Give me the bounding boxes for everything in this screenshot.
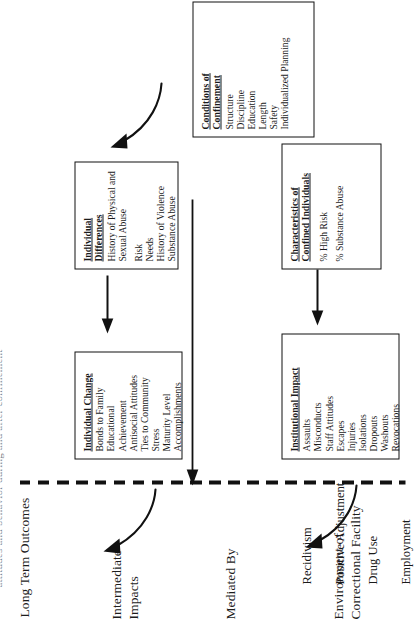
node-item: Substance Abuse (165, 169, 176, 261)
node-item: Discipline (234, 9, 245, 129)
node-individual-differences: Individual Differences History of Physic… (74, 161, 178, 269)
node-item: Revocations (389, 341, 400, 451)
node-item: Educational Achievement (104, 359, 126, 451)
outcome-item: Employment (398, 519, 412, 584)
node-characteristics-of-confined-individuals: Characteristics of Confined Individuals … (281, 143, 381, 269)
node-item: Bonds to Family (93, 359, 104, 451)
node-item: Washouts (378, 341, 389, 451)
node-item: Risk (132, 169, 143, 261)
arrow-curved-icon (300, 481, 362, 557)
node-item: Individualized Planning (278, 9, 289, 129)
node-item: Needs (143, 169, 154, 261)
node-item: Education (245, 9, 256, 129)
node-conditions-of-confinement: Conditions of Confinement Structure Disc… (192, 1, 314, 137)
node-item: Antisocial Attitudes (127, 359, 138, 451)
arrow-short-straight-icon (100, 273, 114, 335)
node-item: % High Risk (317, 151, 328, 261)
node-item: Maturity Level (160, 359, 171, 451)
node-item: Misconducts (311, 341, 322, 451)
arrow-long-straight-icon (185, 197, 199, 487)
node-institutional-impact: Institutional Impact Assaults Misconduct… (281, 333, 399, 459)
arrow-short-straight-icon (310, 267, 324, 327)
node-item: History of Physical and (105, 169, 116, 261)
column-header-mediated-by: Mediated By (222, 548, 239, 619)
spacer (312, 151, 317, 261)
node-item: Stress (149, 359, 160, 451)
diagram-stage: attitudes and behavior during and after … (0, 0, 417, 627)
node-item: Ties to Community (138, 359, 149, 451)
arrow-curved-icon (105, 79, 167, 157)
node-item: Structure (223, 9, 234, 129)
node-item: Accomplishments (171, 359, 182, 451)
spacer (328, 151, 333, 261)
node-item: % Substance Abuse (333, 151, 344, 261)
arrow-curved-icon (97, 485, 159, 563)
caption-remnant: attitudes and behavior during and after … (0, 27, 9, 587)
node-title: Conditions of Confinement (199, 9, 222, 129)
outcome-item: Drug Use (365, 535, 379, 584)
column-header-long-term-outcomes: Long Term Outcomes (16, 497, 33, 617)
node-title: Individual Differences (81, 169, 104, 261)
node-item: Safety (267, 9, 278, 129)
node-title: Institutional Impact (288, 341, 299, 451)
spacer (127, 169, 132, 261)
node-item: History of Violence (154, 169, 165, 261)
node-item: Escapes (334, 341, 345, 451)
node-item: Staff Attitudes (323, 341, 334, 451)
figure-canvas: attitudes and behavior during and after … (0, 0, 417, 627)
node-individual-change: Individual Change Bonds to Family Educat… (74, 351, 182, 459)
node-title: Characteristics of Confined Individuals (288, 151, 311, 261)
node-title: Individual Change (81, 359, 92, 451)
node-item: Injuries (345, 341, 356, 451)
node-item: Isolations (356, 341, 367, 451)
node-item: Assaults (300, 341, 311, 451)
node-item: Sexual Abuse (116, 169, 127, 261)
node-item: Length (256, 9, 267, 129)
node-item: Dropouts (367, 341, 378, 451)
